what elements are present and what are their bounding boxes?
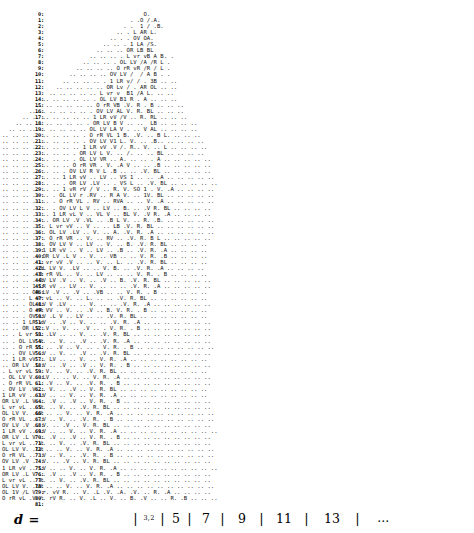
x-axis-ticks: |3,2|5|7|9|11|13|… (132, 511, 407, 526)
x-axis-tick: 9 (226, 511, 258, 526)
x-axis-tick: 13 (310, 511, 354, 526)
x-axis-tick: … (361, 511, 407, 526)
x-axis-tick-separator: | (354, 511, 361, 526)
x-axis-tick-separator: | (219, 511, 226, 526)
plot-row: O rR vL .V /. rV R. .. V. .L .. V. .. B.… (2, 495, 474, 501)
x-axis-tick-separator: | (159, 511, 166, 526)
ascii-character-plot-figure: 0:1:2:3:4:5:6:7:8:9:10:11:12:13:14:15:16… (0, 0, 474, 533)
x-axis: d = |3,2|5|7|9|11|13|… (0, 506, 474, 533)
x-axis-tick-separator: | (186, 511, 193, 526)
x-axis-label: d = (14, 512, 40, 527)
x-axis-tick: 5 (166, 511, 186, 526)
x-axis-tick: 7 (193, 511, 219, 526)
x-axis-tick: 11 (265, 511, 303, 526)
x-axis-tick-separator: | (303, 511, 310, 526)
plot-area: O. . .O /.A. . . 1 / .B. .. . L AR L. ..… (2, 11, 474, 503)
x-axis-tick: 3,2 (139, 511, 159, 526)
x-axis-tick-separator: | (258, 511, 265, 526)
x-axis-tick-separator: | (132, 511, 139, 526)
